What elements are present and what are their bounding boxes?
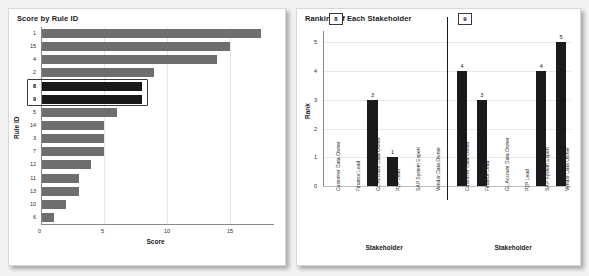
y-axis-title: Rule ID — [13, 116, 20, 138]
y-axis-line — [41, 27, 42, 224]
group-badge-rule-9[interactable]: 9 — [458, 13, 472, 25]
bar-rule-11[interactable] — [41, 174, 79, 183]
bar-rule-14[interactable] — [41, 121, 104, 130]
ytick-rule-12: 12 — [16, 161, 36, 167]
bar-value-label: 4 — [536, 63, 546, 69]
dashboard-root: Score by Rule ID 11542895143712111310605… — [0, 0, 589, 276]
bar-rule-1[interactable] — [41, 29, 261, 38]
ytick-rule-5: 5 — [16, 109, 36, 115]
xtick-5: 5 — [101, 228, 104, 234]
bar-rule-4[interactable] — [41, 55, 217, 64]
bar-rule-5[interactable] — [41, 108, 117, 117]
ytick-4: 4 — [314, 68, 317, 74]
ytick-rule-10: 10 — [16, 201, 36, 207]
group-badge-rule-8[interactable]: 8 — [329, 13, 343, 25]
stakeholder-ranking-panel: Ranking of Each Stakeholder 012345Rank8C… — [296, 8, 581, 266]
stakeholder-ranking-chart: 012345Rank8Customer Data OwnerFinance Le… — [323, 31, 571, 186]
x-axis-line — [41, 224, 274, 225]
ytick-rule-2: 2 — [16, 69, 36, 75]
right-chart-title: Ranking of Each Stakeholder — [305, 14, 411, 23]
score-by-rule-panel: Score by Rule ID 11542895143712111310605… — [8, 8, 286, 266]
ytick-rule-1: 1 — [16, 30, 36, 36]
xtick-15: 15 — [227, 228, 233, 234]
xtick-finance-lead: Finance Lead — [355, 161, 361, 191]
ytick-rule-15: 15 — [16, 43, 36, 49]
bar-value-label: 1 — [387, 149, 397, 155]
ytick-rule-9: 9 — [16, 96, 36, 102]
bar-rule-8[interactable] — [41, 82, 142, 91]
score-by-rule-chart: 115428951437121113106051015ScoreRule ID — [41, 27, 274, 224]
bar-rule-3[interactable] — [41, 134, 104, 143]
bar-value-label: 5 — [556, 34, 566, 40]
x-axis-title: Stakeholder — [366, 244, 403, 251]
ytick-3: 3 — [314, 97, 317, 103]
bar-rule-10[interactable] — [41, 200, 66, 209]
ytick-5: 5 — [314, 39, 317, 45]
ytick-2: 2 — [314, 126, 317, 132]
ytick-rule-7: 7 — [16, 148, 36, 154]
gridline-vertical — [230, 27, 231, 224]
ytick-1: 1 — [314, 154, 317, 160]
bar-rule-13[interactable] — [41, 187, 79, 196]
bar-rule-9[interactable] — [41, 95, 142, 104]
xtick-p2p-lead: P2P Lead — [524, 169, 530, 191]
xtick-sap-system-expert: SAP System Expert — [415, 147, 421, 191]
xtick-10: 10 — [164, 228, 170, 234]
bar-9-vendor-data-owner[interactable] — [556, 42, 566, 186]
y-axis-title: Rank — [304, 103, 311, 119]
group-divider — [447, 17, 448, 200]
bar-value-label: 4 — [457, 63, 467, 69]
bar-9-customer-data-owner[interactable] — [457, 71, 467, 186]
ytick-rule-4: 4 — [16, 56, 36, 62]
y-axis-line — [323, 31, 324, 186]
xtick-vendor-data-owner: Vendor Data Owner — [435, 147, 441, 191]
ytick-rule-6: 6 — [16, 214, 36, 220]
bar-9-finance-lead[interactable] — [477, 100, 487, 186]
bar-value-label: 3 — [368, 92, 378, 98]
xtick-0: 0 — [38, 228, 41, 234]
xtick-customer-data-owner: Customer Data Owner — [335, 141, 341, 191]
bar-9-sap-system-expert[interactable] — [536, 71, 546, 186]
bar-8-p2p-lead[interactable] — [387, 157, 397, 186]
bar-value-label: 3 — [477, 92, 487, 98]
ytick-rule-11: 11 — [16, 175, 36, 181]
ytick-rule-8: 8 — [16, 83, 36, 89]
bar-rule-2[interactable] — [41, 68, 154, 77]
bar-rule-12[interactable] — [41, 160, 91, 169]
ytick-rule-13: 13 — [16, 188, 36, 194]
bar-rule-6[interactable] — [41, 213, 54, 222]
x-axis-title: Score — [147, 238, 165, 245]
x-axis-title: Stakeholder — [495, 244, 532, 251]
bar-8-gl-account-data-owner[interactable] — [367, 100, 377, 186]
bar-rule-15[interactable] — [41, 42, 230, 51]
bar-rule-7[interactable] — [41, 147, 104, 156]
xtick-gl-account-data-owner: GL Account Data Owner — [504, 137, 510, 191]
left-chart-title: Score by Rule ID — [17, 14, 78, 23]
ytick-0: 0 — [314, 183, 317, 189]
